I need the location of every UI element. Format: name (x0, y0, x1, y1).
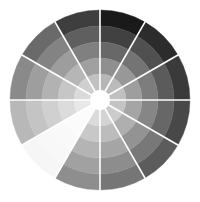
wheel-center (90, 90, 110, 110)
grayscale-color-wheel (0, 0, 200, 202)
